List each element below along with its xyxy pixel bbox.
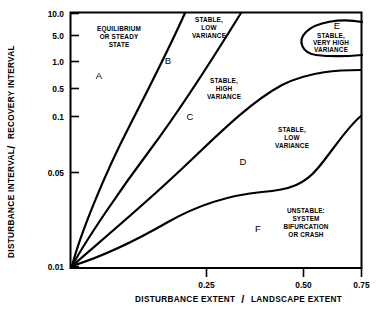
region-f-line2: SYSTEM <box>292 215 319 222</box>
region-f-line1: UNSTABLE: <box>287 207 325 214</box>
region-a-line2: OR STEADY <box>100 33 139 40</box>
x-tick-label: 0.50 <box>295 280 312 290</box>
chart-svg: 10.0 5.0 1.0 0.5 0.1 0.05 0.01 0.25 0.50… <box>0 0 377 310</box>
region-f-line4: OR CRASH <box>288 231 324 238</box>
y-tick-label: 0.5 <box>52 84 64 94</box>
x-tick-labels: 0.25 0.50 0.75 <box>198 280 370 290</box>
region-a-line1: EQUILIBRIUM <box>97 25 141 33</box>
region-b-line1: STABLE, <box>195 16 223 24</box>
x-tick-label: 0.75 <box>353 280 370 290</box>
region-e-line3: VARIANCE <box>314 46 349 53</box>
region-b-line2: LOW <box>201 24 217 31</box>
region-c-line3: VARIANCE <box>207 93 242 100</box>
y-axis-title: DISTURBANCE INTERVAL / RECOVERY INTERVAL <box>5 45 17 258</box>
y-axis-title-part2: RECOVERY INTERVAL <box>7 45 16 139</box>
y-axis-title-slash: / <box>5 145 17 148</box>
region-d-line2: LOW <box>284 134 300 141</box>
x-axis-title-part1: DISTURBANCE EXTENT <box>135 295 235 304</box>
region-e-line2: VERY HIGH <box>313 39 349 46</box>
region-c-letter: C <box>187 111 194 122</box>
chart-figure: 10.0 5.0 1.0 0.5 0.1 0.05 0.01 0.25 0.50… <box>0 0 377 310</box>
region-d-line3: VARIANCE <box>275 142 310 149</box>
region-a-letter: A <box>96 70 103 81</box>
x-axis-title-slash: / <box>241 293 244 305</box>
y-tick-label: 5.0 <box>52 31 64 41</box>
region-f-letter: F <box>255 223 261 234</box>
region-e-letter: E <box>334 20 340 31</box>
region-c-line2: HIGH <box>216 85 233 92</box>
region-f-line3: BIFURCATION <box>283 223 328 230</box>
y-tick-label: 0.1 <box>52 112 64 122</box>
y-axis-title-part1: DISTURBANCE INTERVAL <box>7 149 16 258</box>
region-d-letter: D <box>240 156 247 167</box>
y-tick-label: 0.05 <box>48 168 65 178</box>
y-tick-label: 10.0 <box>48 9 65 19</box>
region-a-line3: STATE <box>109 41 130 48</box>
y-tick-label: 0.01 <box>48 262 65 272</box>
y-tick-labels: 10.0 5.0 1.0 0.5 0.1 0.05 0.01 <box>48 9 65 272</box>
x-tick-label: 0.25 <box>198 280 215 290</box>
x-axis-ticks <box>207 268 362 277</box>
region-b-letter: B <box>165 55 171 66</box>
y-tick-label: 1.0 <box>52 57 64 67</box>
x-axis-title-part2: LANDSCAPE EXTENT <box>251 295 342 304</box>
region-b-line3: VARIANCE <box>192 32 227 39</box>
x-axis-title: DISTURBANCE EXTENT / LANDSCAPE EXTENT <box>135 293 342 305</box>
region-c-line1: STABLE, <box>210 77 238 85</box>
region-d-line1: STABLE, <box>278 126 306 134</box>
